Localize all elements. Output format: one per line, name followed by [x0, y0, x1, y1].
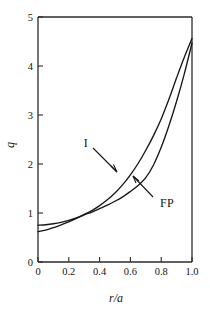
y-tick-label-2: 2 [28, 159, 33, 170]
y-tick-label-5: 5 [28, 12, 33, 23]
y-tick-label-3: 3 [28, 110, 33, 121]
x-tick-label-06: 0.6 [124, 266, 137, 277]
curve-label-i: I [84, 136, 88, 150]
y-tick-label-0: 0 [28, 257, 33, 268]
x-axis-title: r/a [109, 291, 123, 305]
annotation-leaders [93, 148, 153, 197]
x-tick-label-02: 0.2 [62, 266, 75, 277]
x-tick-label-0: 0 [35, 266, 40, 277]
x-tick-label-10: 1.0 [185, 266, 198, 277]
y-axis-title: q [3, 142, 17, 148]
x-axis-ticks [38, 257, 192, 262]
y-tick-label-1: 1 [28, 208, 33, 219]
x-axis-tick-labels: 0 0.2 0.4 0.6 0.8 1.0 [35, 266, 198, 277]
x-tick-label-04: 0.4 [93, 266, 107, 277]
x-tick-label-08: 0.8 [155, 266, 168, 277]
plot-svg: 0 1 2 3 4 5 0 0.2 0.4 0.6 0.8 1.0 r/a q [0, 0, 210, 322]
arrowhead-i [111, 165, 117, 173]
y-axis-tick-labels: 0 1 2 3 4 5 [28, 12, 34, 268]
curve-label-fp: FP [160, 196, 174, 210]
y-tick-label-4: 4 [28, 61, 34, 72]
figure-container: 0 1 2 3 4 5 0 0.2 0.4 0.6 0.8 1.0 r/a q [0, 0, 210, 322]
